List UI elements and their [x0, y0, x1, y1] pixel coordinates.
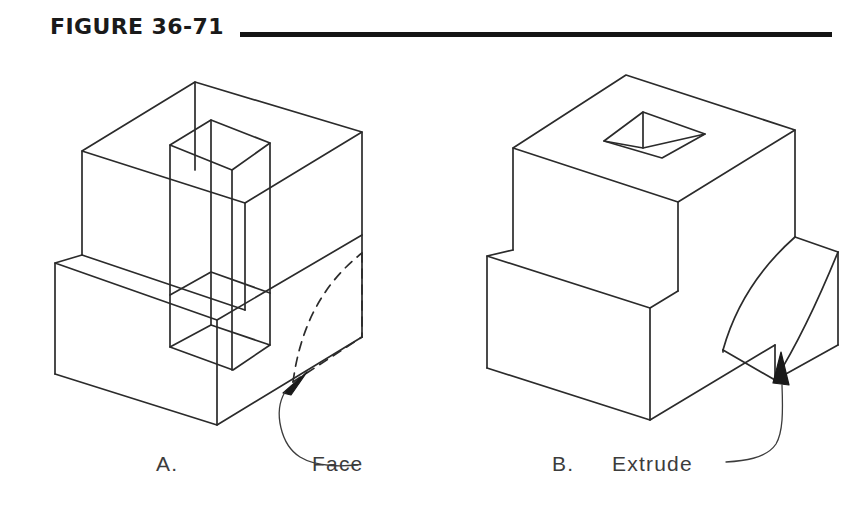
prism-a-bottom-rim [170, 325, 270, 370]
panel-a-wireframe [55, 82, 362, 466]
block-a-step-shelf [55, 235, 362, 320]
figure-artwork [0, 0, 867, 507]
block-b-lower-block [487, 256, 650, 420]
caption-a-label: A. [156, 452, 178, 476]
prism-a-shelf-intersection [170, 272, 270, 295]
block-b-step-shelf [487, 148, 678, 308]
prism-a-top-rim [170, 120, 270, 170]
caption-extrude-callout: Extrude [612, 452, 693, 476]
block-b-right-face [650, 130, 795, 420]
block-a-top-face [82, 82, 362, 203]
prism-a-vertical-edges [170, 120, 270, 370]
block-b-top-pocket [604, 112, 705, 158]
dashed-face-outline [293, 253, 362, 382]
caption-face-callout: Face [312, 452, 364, 476]
figure-root: FIGURE 36-71 [0, 0, 867, 507]
block-b-top-face [513, 75, 795, 202]
block-a-lower-block [55, 263, 362, 425]
caption-b-label: B. [552, 452, 574, 476]
panel-b-solid [487, 75, 838, 462]
